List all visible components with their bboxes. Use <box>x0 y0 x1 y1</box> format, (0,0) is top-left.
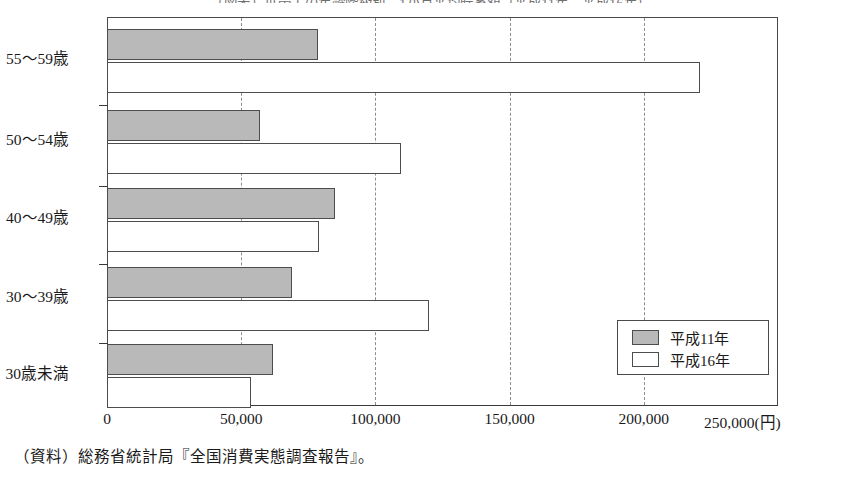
bar-heisei16-3 <box>107 300 429 331</box>
legend-label-heisei16: 平成16年 <box>670 349 730 370</box>
legend-swatch-heisei16 <box>632 352 659 367</box>
bar-heisei16-0 <box>107 62 700 93</box>
legend-item-0: 平成11年 <box>632 326 768 348</box>
x-tick-label-5: 250,000(円) <box>704 410 781 432</box>
chart-figure: （図表）世帯主の年齢階級別 1か月平均貯蓄額（平成11年、平成16年） 050,… <box>0 0 861 485</box>
bar-heisei11-2 <box>107 188 335 219</box>
y-tick-mark-0 <box>99 105 108 106</box>
bar-heisei16-4 <box>107 377 251 408</box>
bar-heisei16-1 <box>107 143 401 174</box>
x-tick-label-1: 50,000 <box>220 410 263 428</box>
bar-heisei11-1 <box>107 110 260 141</box>
chart-legend: 平成11年 平成16年 <box>617 320 769 375</box>
y-tick-label-0: 55～59歳 <box>0 46 69 68</box>
y-tick-label-3: 30～39歳 <box>0 284 69 306</box>
x-tick-label-4: 200,000 <box>619 410 669 428</box>
y-tick-mark-2 <box>99 264 108 265</box>
y-tick-label-2: 40～49歳 <box>0 205 69 227</box>
x-tick-label-0: 0 <box>103 410 111 428</box>
x-tick-label-2: 100,000 <box>350 410 400 428</box>
chart-title: （図表）世帯主の年齢階級別 1か月平均貯蓄額（平成11年、平成16年） <box>0 0 861 3</box>
legend-label-heisei11: 平成11年 <box>670 327 729 348</box>
bar-heisei11-0 <box>107 29 318 60</box>
legend-item-1: 平成16年 <box>632 348 768 370</box>
y-tick-label-4: 30歳未満 <box>0 361 69 383</box>
bar-heisei11-3 <box>107 267 292 298</box>
y-tick-mark-1 <box>99 186 108 187</box>
bar-heisei11-4 <box>107 344 273 375</box>
y-tick-label-1: 50～54歳 <box>0 127 69 149</box>
source-note: （資料）総務省統計局『全国消費実態調査報告』。 <box>14 444 374 466</box>
x-tick-label-3: 150,000 <box>484 410 534 428</box>
legend-swatch-heisei11 <box>632 330 659 345</box>
bar-heisei16-2 <box>107 221 319 252</box>
